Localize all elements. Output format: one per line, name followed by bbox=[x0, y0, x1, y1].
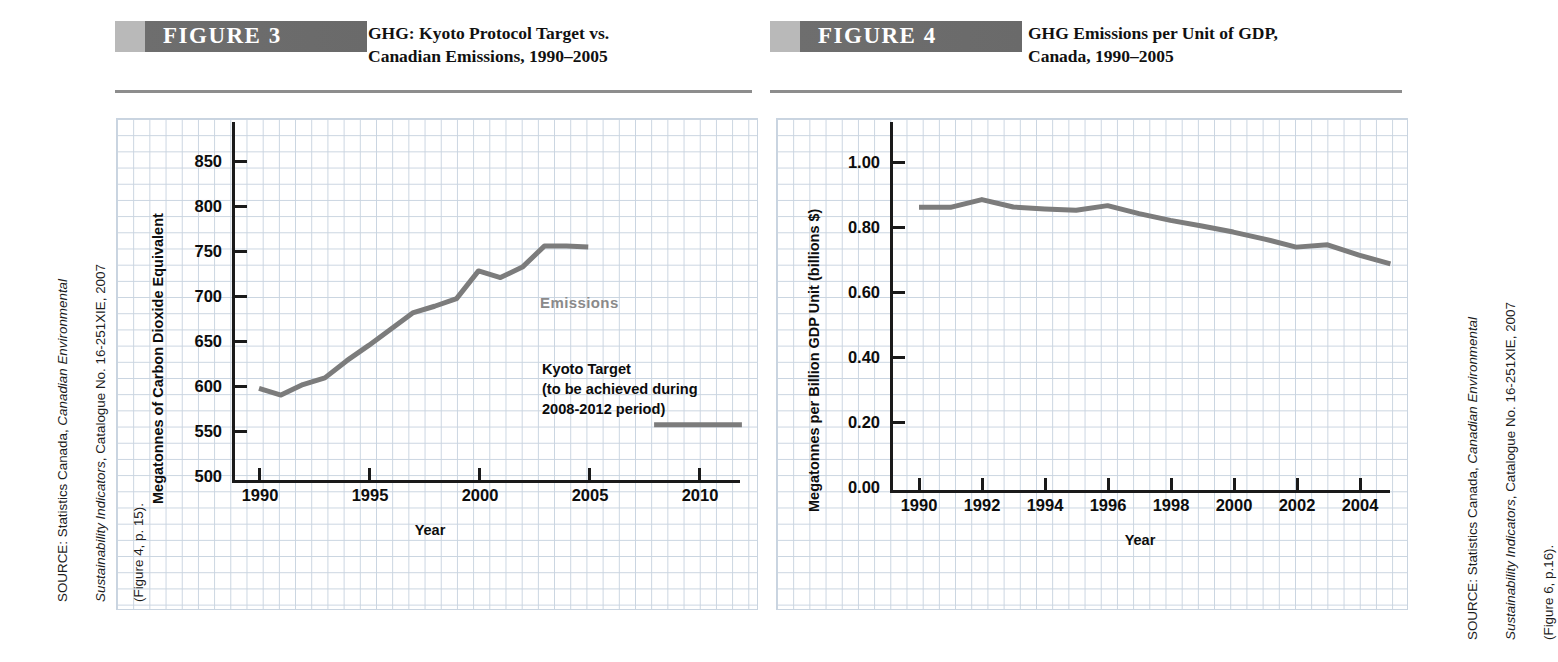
figure-3-badge-label: FIGURE 3 bbox=[163, 23, 282, 49]
source-line-1-plain: SOURCE: Statistics Canada, bbox=[55, 426, 70, 602]
emissions-annotation: Emissions bbox=[540, 294, 619, 311]
figure-4-badge: FIGURE 4 bbox=[770, 21, 1022, 52]
emissions-series-line bbox=[110, 104, 752, 596]
figure-4-source: SOURCE: Statistics Canada, Canadian Envi… bbox=[1444, 120, 1558, 640]
gdp-intensity-series-line bbox=[770, 104, 1402, 596]
source-line-2-italic: Sustainability Indicators bbox=[93, 461, 108, 602]
source-line-1-plain: SOURCE: Statistics Canada, bbox=[1465, 464, 1480, 640]
figure-4-plot-area: Megatonnes per Billion GDP Unit (billion… bbox=[770, 104, 1402, 596]
source-line-2-plain: , Catalogue No. 16-251XIE, 2007 bbox=[93, 264, 108, 461]
source-line-2-plain: , Catalogue No. 16-251XIE, 2007 bbox=[1503, 302, 1518, 499]
figure-3-header: FIGURE 3 GHG: Kyoto Protocol Target vs. … bbox=[0, 0, 760, 96]
figure-4-title: GHG Emissions per Unit of GDP, Canada, 1… bbox=[1028, 22, 1428, 68]
figure-panel-4: FIGURE 4 GHG Emissions per Unit of GDP, … bbox=[760, 0, 1519, 662]
figure-4-header: FIGURE 4 GHG Emissions per Unit of GDP, … bbox=[760, 0, 1519, 96]
source-line-3: (Figure 4, p. 15). bbox=[131, 503, 146, 602]
figure-4-rule bbox=[770, 90, 1402, 93]
figure-panel-3: FIGURE 3 GHG: Kyoto Protocol Target vs. … bbox=[0, 0, 760, 662]
source-line-3: (Figure 6, p.16). bbox=[1541, 545, 1556, 640]
series-polyline bbox=[259, 246, 588, 395]
figure-3-source: SOURCE: Statistics Canada, Canadian Envi… bbox=[34, 132, 148, 602]
figure-3-plot-area: Megatonnes of Carbon Dioxide Equivalent … bbox=[110, 104, 752, 596]
source-line-1-italic: Canadian Environmental bbox=[55, 279, 70, 426]
series-polyline bbox=[919, 200, 1390, 264]
figure-3-badge: FIGURE 3 bbox=[115, 21, 367, 52]
source-line-2-italic: Sustainability Indicators bbox=[1503, 499, 1518, 640]
kyoto-target-annotation: Kyoto Target (to be achieved during 2008… bbox=[542, 359, 698, 419]
figure-3-rule bbox=[115, 90, 752, 93]
source-line-1-italic: Canadian Environmental bbox=[1465, 317, 1480, 464]
figure-4-badge-label: FIGURE 4 bbox=[818, 23, 937, 49]
figure-3-title: GHG: Kyoto Protocol Target vs. Canadian … bbox=[368, 22, 768, 68]
